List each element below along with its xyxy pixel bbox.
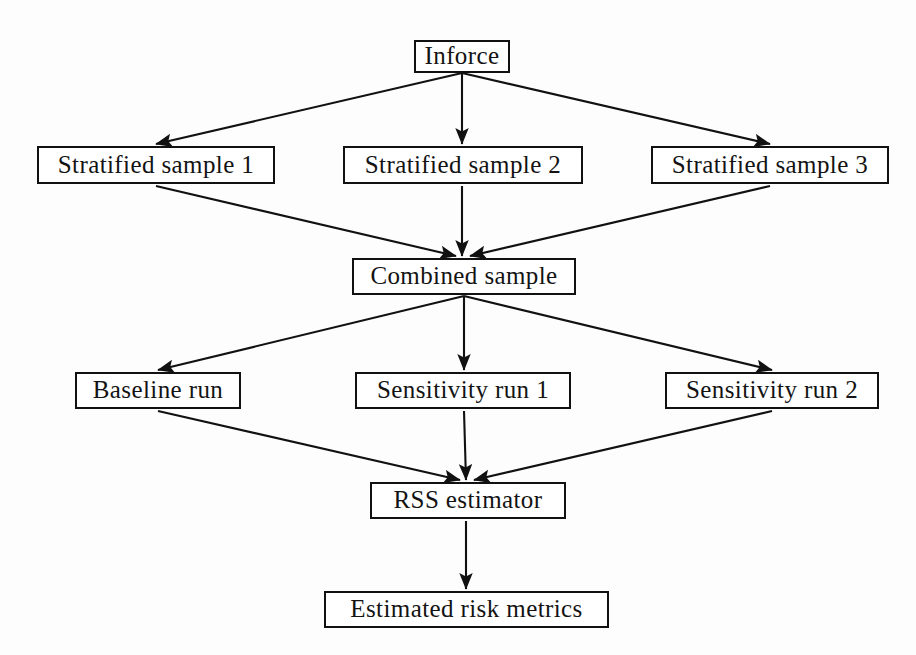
node-stratified-sample-1-label: Stratified sample 1 bbox=[49, 152, 263, 177]
node-stratified-sample-3[interactable]: Stratified sample 3 bbox=[651, 146, 889, 184]
node-stratified-sample-2-label: Stratified sample 2 bbox=[356, 152, 570, 177]
node-combined-sample[interactable]: Combined sample bbox=[352, 258, 576, 295]
edge-strat3-to-combined bbox=[470, 186, 770, 256]
node-stratified-sample-1[interactable]: Stratified sample 1 bbox=[37, 146, 275, 184]
edge-combined-to-sens2 bbox=[464, 296, 772, 370]
node-rss-estimator-label: RSS estimator bbox=[385, 487, 552, 512]
diagram-canvas: Inforce Stratified sample 1 Stratified s… bbox=[0, 0, 916, 655]
node-inforce-label: Inforce bbox=[416, 43, 509, 68]
edge-combined-to-baseline bbox=[158, 296, 464, 370]
edge-inforce-to-strat3 bbox=[462, 73, 770, 144]
node-baseline-run-label: Baseline run bbox=[84, 377, 232, 402]
node-inforce[interactable]: Inforce bbox=[414, 40, 510, 73]
node-estimated-risk-metrics[interactable]: Estimated risk metrics bbox=[324, 591, 609, 628]
node-sensitivity-run-1[interactable]: Sensitivity run 1 bbox=[355, 372, 571, 409]
node-estimated-risk-metrics-label: Estimated risk metrics bbox=[341, 596, 591, 621]
node-sensitivity-run-1-label: Sensitivity run 1 bbox=[368, 377, 558, 402]
edge-sens1-to-rss bbox=[464, 411, 466, 480]
node-sensitivity-run-2[interactable]: Sensitivity run 2 bbox=[665, 372, 879, 409]
edge-strat1-to-combined bbox=[156, 186, 456, 256]
edge-layer bbox=[0, 0, 916, 655]
node-stratified-sample-2[interactable]: Stratified sample 2 bbox=[343, 146, 583, 184]
edge-sens2-to-rss bbox=[474, 411, 772, 480]
node-rss-estimator[interactable]: RSS estimator bbox=[370, 482, 566, 519]
node-baseline-run[interactable]: Baseline run bbox=[75, 372, 241, 409]
edge-baseline-to-rss bbox=[158, 411, 460, 480]
edge-inforce-to-strat1 bbox=[156, 73, 462, 144]
node-sensitivity-run-2-label: Sensitivity run 2 bbox=[677, 377, 867, 402]
node-combined-sample-label: Combined sample bbox=[361, 263, 566, 288]
node-stratified-sample-3-label: Stratified sample 3 bbox=[663, 152, 877, 177]
